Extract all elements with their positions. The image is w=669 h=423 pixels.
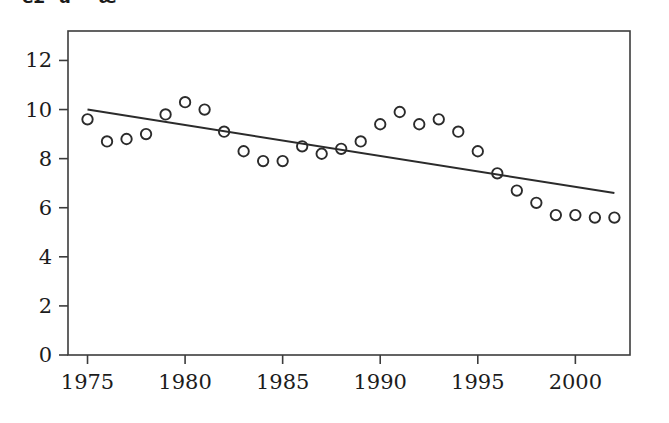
x-tick-label: 2000: [549, 370, 602, 394]
chart-title-text: é£åææ°: [22, 0, 142, 8]
y-tick-label: 6: [39, 196, 52, 220]
plot-frame: [68, 31, 630, 355]
y-tick-label: 2: [39, 294, 52, 318]
y-tick-label: 8: [39, 147, 52, 171]
x-tick-label: 1980: [158, 370, 211, 394]
x-tick-label: 1975: [61, 370, 114, 394]
x-axis-ticks: [88, 355, 576, 364]
x-tick-label: 1985: [256, 370, 309, 394]
y-axis-ticks: [59, 60, 68, 355]
chart-title-clipped: é£åææ°: [22, 0, 142, 8]
y-tick-label: 4: [39, 245, 52, 269]
y-tick-label: 10: [25, 98, 52, 122]
y-axis-tick-labels: 024681012: [25, 48, 52, 367]
x-tick-label: 1995: [451, 370, 504, 394]
scatter-plot: 024681012 197519801985199019952000: [0, 0, 669, 423]
x-tick-label: 1990: [353, 370, 406, 394]
y-tick-label: 12: [25, 48, 52, 72]
x-axis-tick-labels: 197519801985199019952000: [61, 370, 602, 394]
chart-figure: é£åææ° 024681012 19751980198519901…: [0, 0, 669, 423]
y-tick-label: 0: [39, 343, 52, 367]
